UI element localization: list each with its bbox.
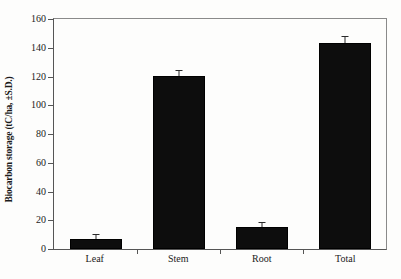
x-tick-label: Leaf xyxy=(53,254,137,264)
error-bar-cap xyxy=(175,70,182,71)
y-axis-title: Biocarbon storage (tC/ha, ±S.D.) xyxy=(0,0,18,279)
y-tick-label: 100 xyxy=(31,100,46,110)
bar xyxy=(319,43,371,249)
error-bar-cap xyxy=(258,222,265,223)
bar-group xyxy=(153,76,205,249)
x-tick-label: Total xyxy=(304,254,388,264)
bar-slot xyxy=(54,19,137,249)
x-axis-labels: LeafStemRootTotal xyxy=(53,254,387,264)
error-bar xyxy=(178,71,179,76)
bar-group xyxy=(236,227,288,249)
y-tick-label: 0 xyxy=(41,244,46,254)
x-tick-label: Root xyxy=(220,254,304,264)
y-tick-label: 120 xyxy=(31,72,46,82)
bar-series xyxy=(54,19,386,249)
bar-group xyxy=(319,43,371,249)
y-tick-label: 160 xyxy=(31,14,46,24)
bar-slot xyxy=(137,19,220,249)
y-tick-label: 60 xyxy=(36,158,46,168)
error-bar-cap xyxy=(92,234,99,235)
y-tick-label: 20 xyxy=(36,215,46,225)
y-tick-label: 40 xyxy=(36,187,46,197)
bar-group xyxy=(70,239,122,249)
bar-slot xyxy=(220,19,303,249)
y-tick-label: 140 xyxy=(31,43,46,53)
bar xyxy=(153,76,205,249)
bar-slot xyxy=(303,19,386,249)
error-bar xyxy=(95,235,96,239)
x-tick-label: Stem xyxy=(137,254,221,264)
bar-chart-figure: Biocarbon storage (tC/ha, ±S.D.) 0204060… xyxy=(0,0,401,279)
bar xyxy=(236,227,288,249)
plot-area: 020406080100120140160 xyxy=(53,18,387,250)
error-bar xyxy=(261,223,262,227)
y-tick-label: 80 xyxy=(36,129,46,139)
y-tick-mark xyxy=(48,249,54,250)
error-bar xyxy=(344,37,345,43)
bar xyxy=(70,239,122,249)
error-bar-cap xyxy=(341,36,348,37)
